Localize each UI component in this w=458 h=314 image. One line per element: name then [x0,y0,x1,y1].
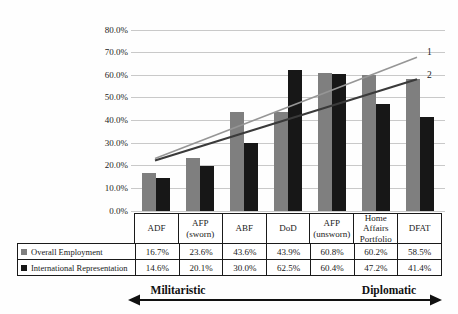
table-value-cell: 41.4% [397,260,441,275]
table-value-cell: 43.9% [266,244,310,259]
spectrum-right-label: Diplomatic [362,284,416,296]
legend-cell: Overall Employment [18,244,135,259]
y-tick-label: 30.0% [105,138,128,149]
category-header-cell: DoD [266,214,310,243]
y-tick-label: 60.0% [105,70,128,81]
table-value-cell: 43.6% [222,244,266,259]
y-tick-label: 40.0% [105,115,128,126]
y-tick-label: 20.0% [105,160,128,171]
category-header-cell: AFP (unsworn) [309,214,353,243]
category-header-row: ADFAFP (sworn)ABFDoDAFP (unsworn)Home Af… [134,213,442,244]
category-header-cell: AFP (sworn) [178,214,222,243]
plot-area [134,30,442,211]
table-value-cell: 23.6% [179,244,223,259]
table-value-cell: 60.8% [310,244,354,259]
table-value-cell: 16.7% [135,244,179,259]
y-tick-label: 0.0% [109,206,128,217]
legend-cell: International Representation [18,260,135,275]
legend-label: International Representation [31,263,128,273]
trendline [155,79,417,160]
legend-marker-icon [21,249,27,255]
employment-representation-chart-figure: 80.0%70.0%60.0%50.0%40.0%30.0%20.0%10.0%… [0,0,458,314]
trendline [155,57,417,158]
trendline-2-label: 2 [427,70,432,81]
y-tick-label: 70.0% [105,47,128,58]
table-value-cell: 62.5% [266,260,310,275]
table-value-cell: 47.2% [354,260,398,275]
trendlines-layer [134,30,442,211]
table-row-international-representation: International Representation14.6%20.1%30… [17,259,442,276]
legend-marker-icon [21,265,27,271]
table-value-cell: 60.4% [310,260,354,275]
y-tick-label: 50.0% [105,92,128,103]
y-tick-label: 80.0% [105,25,128,36]
category-header-cell: Home Affairs Portfolio [353,214,397,243]
y-tick-label: 10.0% [105,183,128,194]
category-header-cell: DFAT [397,214,441,243]
table-value-cell: 14.6% [135,260,179,275]
table-value-cell: 58.5% [397,244,441,259]
trendline-1-label: 1 [427,47,432,58]
category-header-cell: ABF [222,214,266,243]
y-axis: 80.0%70.0%60.0%50.0%40.0%30.0%20.0%10.0%… [0,0,129,260]
category-header-cell: ADF [135,214,178,243]
spectrum-left-label: Militaristic [151,284,206,296]
legend-label: Overall Employment [31,247,103,257]
table-value-cell: 30.0% [222,260,266,275]
table-row-overall-employment: Overall Employment16.7%23.6%43.6%43.9%60… [17,243,442,260]
table-value-cell: 60.2% [354,244,398,259]
table-value-cell: 20.1% [179,260,223,275]
